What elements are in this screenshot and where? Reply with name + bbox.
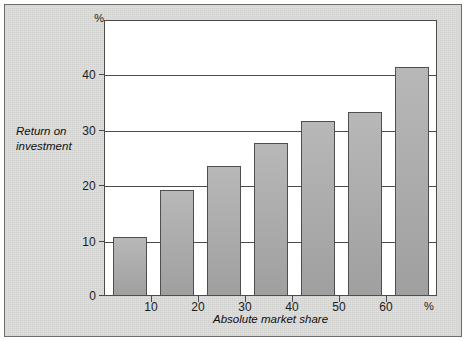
chart-screenshot: % 40 30 20 10 0 10 20 30 40 50 60 % Retu… <box>0 0 466 341</box>
y-tick-label-0: 0 <box>62 289 96 303</box>
x-tick-label-10: 10 <box>131 300 171 314</box>
y-tick-mark-30 <box>99 130 105 131</box>
y-tick-mark-0 <box>99 295 105 296</box>
bar-0-10 <box>113 237 147 296</box>
x-axis-unit: % <box>424 300 448 312</box>
x-tick-label-20: 20 <box>178 300 218 314</box>
y-tick-label-10: 10 <box>62 235 96 249</box>
bar-50-60 <box>348 112 382 296</box>
bar-20-30 <box>207 166 241 296</box>
x-tick-label-40: 40 <box>272 300 312 314</box>
y-tick-mark-10 <box>99 241 105 242</box>
y-tick-mark-40 <box>99 74 105 75</box>
y-tick-mark-20 <box>99 185 105 186</box>
x-tick-label-50: 50 <box>319 300 359 314</box>
y-axis-unit: % <box>70 12 104 24</box>
x-tick-label-30: 30 <box>225 300 265 314</box>
y-tick-label-20: 20 <box>62 179 96 193</box>
bar-60-70 <box>395 67 429 296</box>
bar-10-20 <box>160 190 194 296</box>
bar-40-50 <box>301 121 335 296</box>
bar-30-40 <box>254 143 288 296</box>
y-tick-label-40: 40 <box>62 68 96 82</box>
y-axis-title: Return on investment <box>16 124 90 154</box>
bar-series <box>104 20 437 296</box>
x-tick-label-60: 60 <box>366 300 406 314</box>
x-axis-title: Absolute market share <box>104 313 437 325</box>
